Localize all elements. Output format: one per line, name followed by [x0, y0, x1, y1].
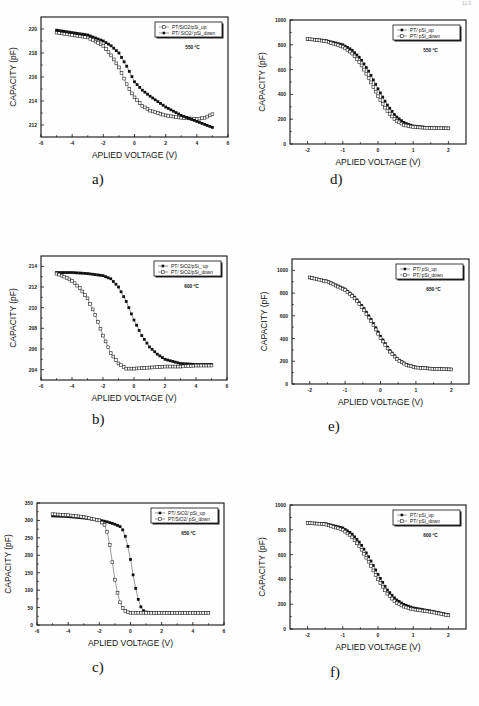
- y-tick-label: 212: [29, 122, 38, 128]
- x-tick-label: 4: [191, 628, 194, 634]
- x-tick-label: 0: [129, 628, 132, 634]
- x-tick-label: 2: [164, 383, 167, 389]
- x-tick-label: 0: [133, 383, 136, 389]
- x-tick-label: 2: [447, 147, 450, 153]
- chart-panel-c: -6-4-20246050100150200250300350APLIED VO…: [3, 500, 226, 648]
- x-tick-label: 1: [415, 387, 418, 393]
- y-tick-label: 1000: [275, 17, 286, 23]
- x-tick-label: 1: [412, 632, 415, 638]
- x-axis-label: APLIED VOLTAGE (V): [91, 393, 176, 403]
- y-tick-label: 216: [29, 74, 38, 80]
- legend: PT/ pSi_upPT/ pSi_down: [393, 510, 462, 527]
- y-tick-label: 800: [278, 527, 287, 533]
- legend: PT/ SiO2/ pSi_upPT/SiO2/ pSi_down: [151, 508, 220, 525]
- x-axis-label: APLIED VOLTAGE (V): [335, 642, 420, 652]
- legend-entry: PT/SiO2/ pSi_down: [168, 517, 210, 522]
- x-tick-label: 1: [412, 147, 415, 153]
- y-tick-label: 208: [29, 325, 38, 331]
- y-tick-label: 200: [25, 552, 34, 558]
- x-tick-label: -4: [70, 383, 75, 389]
- temperature-annotation: 550 ºC: [423, 48, 438, 53]
- legend-entry: PT/ pSi_up: [410, 513, 434, 518]
- chart-panel-e: -2-101202004006008001000APLIED VOLTAGE (…: [259, 259, 469, 407]
- temperature-annotation: 650 ºC: [426, 287, 441, 292]
- temperature-annotation: 550 ºC: [185, 45, 200, 50]
- x-axis-label: APLIED VOLTAGE (V): [88, 638, 173, 648]
- y-axis: 212214216218220: [29, 26, 44, 128]
- y-tick-label: 200: [278, 601, 287, 607]
- y-tick-label: 600: [278, 67, 287, 73]
- legend-entry: PT/ pSi_down: [410, 34, 440, 39]
- temperature-annotation: 600 ºC: [423, 533, 438, 538]
- y-tick-label: 206: [29, 346, 38, 352]
- y-tick-label: 250: [25, 535, 34, 541]
- y-tick-label: 0: [285, 381, 288, 387]
- y-axis-label: CAPACITY (pF): [8, 47, 18, 107]
- temperature-annotation: 600 ºC: [184, 284, 199, 289]
- chart-panel-d: -2-101202004006008001000APLIED VOLTAGE (…: [257, 17, 466, 167]
- panel-caption: e): [328, 418, 340, 435]
- y-tick-label: 600: [278, 552, 287, 558]
- page-number: 113: [461, 0, 471, 6]
- figure-canvas: -6-4-20246212214216218220APLIED VOLTAGE …: [0, 0, 479, 706]
- y-axis-label: CAPACITY (pF): [8, 288, 18, 348]
- y-tick-label: 212: [29, 284, 38, 290]
- y-axis: 204206208210212214: [29, 263, 44, 372]
- chart-panel-a: -6-4-20246212214216218220APLIED VOLTAGE …: [8, 17, 230, 160]
- x-tick-label: -2: [305, 147, 310, 153]
- y-tick-label: 210: [29, 305, 38, 311]
- legend-entry: PT/ pSi_up: [410, 28, 434, 33]
- x-axis: -6-4-20246: [39, 377, 229, 389]
- legend-entry: PT/ SiO2/ pSi_up: [168, 511, 205, 516]
- y-axis-label: CAPACITY (pF): [3, 534, 13, 594]
- legend: PT/ SiO2/pSi_ upPT/ SiO2/pSi_down: [154, 261, 223, 278]
- x-tick-label: 0: [379, 387, 382, 393]
- x-axis-label: APLIED VOLTAGE (V): [92, 150, 177, 160]
- x-tick-label: -6: [35, 628, 40, 634]
- series-open: [51, 513, 210, 614]
- y-tick-label: 50: [27, 605, 33, 611]
- y-tick-label: 800: [280, 290, 289, 296]
- x-axis: -6-4-20246: [39, 134, 230, 146]
- x-tick-label: -2: [101, 383, 106, 389]
- x-tick-label: 6: [223, 628, 226, 634]
- x-axis-label: APLIED VOLTAGE (V): [335, 157, 420, 167]
- y-tick-label: 400: [278, 576, 287, 582]
- x-tick-label: -2: [307, 387, 312, 393]
- legend-entry: PT/ pSi_down: [413, 273, 443, 278]
- x-axis: -6-4-20246: [35, 622, 226, 634]
- y-tick-label: 220: [29, 26, 38, 32]
- y-tick-label: 300: [25, 517, 34, 523]
- y-tick-label: 350: [25, 500, 34, 506]
- y-tick-label: 600: [280, 313, 289, 319]
- legend: PT/ pSi_upPT/ pSi_down: [393, 25, 462, 42]
- y-axis: 050100150200250300350: [25, 500, 40, 628]
- y-tick-label: 214: [29, 98, 38, 104]
- y-tick-label: 200: [278, 116, 287, 122]
- y-tick-label: 0: [283, 141, 286, 147]
- x-axis: -2-1012: [307, 381, 452, 393]
- panel-caption: f): [330, 664, 340, 681]
- panel-caption: c): [92, 659, 104, 676]
- figure-grid: -6-4-20246212214216218220APLIED VOLTAGE …: [0, 0, 479, 706]
- x-tick-label: 4: [195, 140, 198, 146]
- y-tick-label: 0: [30, 622, 33, 628]
- x-tick-label: 6: [227, 140, 230, 146]
- x-tick-label: -1: [341, 632, 346, 638]
- panel-caption: b): [92, 411, 105, 428]
- panel-caption: a): [92, 171, 104, 188]
- series-filled: [51, 514, 210, 614]
- chart-panel-f: -2-101202004006008001000APLIED VOLTAGE (…: [257, 502, 466, 652]
- chart-panel-b: -6-4-20246204206208210212214APLIED VOLTA…: [8, 256, 229, 403]
- x-tick-label: -1: [341, 147, 346, 153]
- series-filled: [55, 29, 214, 129]
- x-tick-label: 0: [377, 632, 380, 638]
- y-tick-label: 400: [280, 336, 289, 342]
- y-tick-label: 200: [280, 358, 289, 364]
- y-axis-label: CAPACITY (pF): [257, 52, 267, 112]
- legend-entry: PT/ SiO2/ pSi_down: [172, 31, 216, 36]
- y-tick-label: 204: [29, 367, 38, 373]
- legend-entry: PT/ pSi_down: [410, 519, 440, 524]
- x-axis-label: APLIED VOLTAGE (V): [338, 397, 423, 407]
- y-tick-label: 100: [25, 587, 34, 593]
